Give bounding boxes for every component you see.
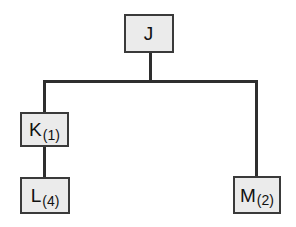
node-l-sub: (4) (42, 194, 59, 208)
edge-k-to-l (43, 145, 46, 178)
tree-diagram: J K (1) L (4) M (2) (0, 0, 296, 227)
node-k-sub: (1) (43, 128, 60, 142)
node-m-sub: (2) (257, 193, 274, 207)
edge-j-stem (149, 52, 152, 83)
edge-horizontal-bar (43, 80, 258, 83)
node-m-label: M (240, 186, 256, 205)
node-l-label: L (31, 186, 42, 205)
node-l: L (4) (20, 177, 70, 214)
node-j: J (124, 14, 174, 53)
edge-to-m (255, 80, 258, 177)
node-m: M (2) (233, 176, 281, 214)
edge-to-k (43, 80, 46, 113)
node-k-label: K (29, 120, 42, 139)
node-j-label: J (144, 24, 154, 43)
node-k: K (1) (20, 112, 69, 147)
